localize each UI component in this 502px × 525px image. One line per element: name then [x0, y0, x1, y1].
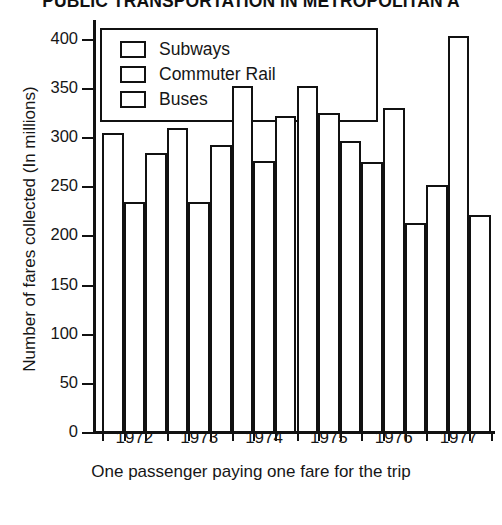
bar: [469, 215, 491, 433]
bar: [210, 145, 232, 433]
y-axis-tick: 200: [82, 235, 93, 237]
y-axis-title: Number of fares collected (In millions): [20, 49, 40, 409]
bar: [361, 162, 383, 433]
bar: [297, 86, 319, 433]
bar: [253, 161, 275, 433]
bar: [426, 185, 448, 433]
bar: [340, 141, 362, 433]
y-axis-tick: 350: [82, 88, 93, 90]
bar: [383, 108, 405, 433]
y-axis-tick: 100: [82, 334, 93, 336]
bar: [405, 223, 427, 433]
y-axis-tick-label: 300: [50, 127, 78, 146]
y-axis-tick: 150: [82, 285, 93, 287]
y-axis-tick: 300: [82, 137, 93, 139]
y-axis-tick-label: 0: [69, 422, 78, 441]
bar: [145, 153, 167, 433]
y-axis-line: [93, 20, 96, 433]
bar: [275, 116, 297, 433]
legend-item-label: Buses: [159, 89, 208, 110]
y-axis-tick-label: 150: [50, 275, 78, 294]
bar: [188, 202, 210, 433]
legend-item[interactable]: Subways: [102, 37, 376, 62]
x-axis-title: One passenger paying one fare for the tr…: [0, 462, 502, 482]
legend-swatch-icon: [120, 91, 146, 108]
bar: [448, 36, 470, 433]
y-axis-tick-label: 50: [60, 373, 78, 392]
chart-page: PUBLIC TRANSPORTATION IN METROPOLITAN A …: [0, 0, 502, 525]
y-axis-tick-label: 100: [50, 324, 78, 343]
legend-item-label: Subways: [159, 39, 230, 60]
legend-swatch-icon: [120, 41, 146, 58]
bar: [318, 113, 340, 433]
page-title: PUBLIC TRANSPORTATION IN METROPOLITAN A: [0, 0, 502, 12]
y-axis-tick: 0: [82, 432, 93, 434]
y-axis-tick-label: 200: [50, 225, 78, 244]
y-axis-tick: 250: [82, 186, 93, 188]
y-axis-tick: 400: [82, 39, 93, 41]
y-axis-tick-label: 350: [50, 78, 78, 97]
y-axis-tick-label: 400: [50, 29, 78, 48]
bar: [102, 133, 124, 433]
bar: [124, 202, 146, 433]
y-axis-tick-label: 250: [50, 176, 78, 195]
legend-item-label: Commuter Rail: [159, 64, 276, 85]
bar: [167, 128, 189, 433]
x-axis-tick: [491, 431, 493, 441]
y-axis-tick: 50: [82, 383, 93, 385]
legend-swatch-icon: [120, 66, 146, 83]
legend-item[interactable]: Commuter Rail: [102, 62, 376, 87]
bar: [232, 86, 254, 433]
